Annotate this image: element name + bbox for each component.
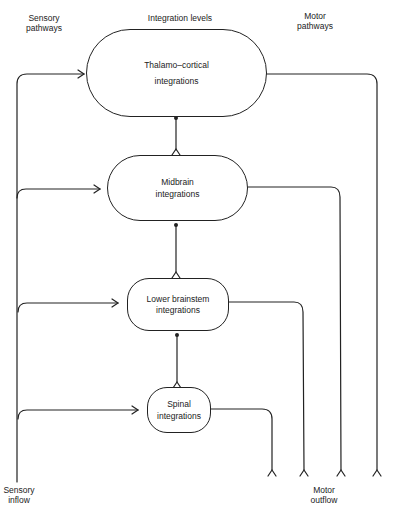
sensory-branch-lower-brainstem (18, 303, 118, 312)
header-sensory-pathways: Sensory pathways (16, 13, 72, 33)
header-motor-pathways: Motor pathways (287, 11, 343, 31)
header-integration-levels: Integration levels (130, 13, 230, 23)
footer-sensory-inflow: Sensory inflow (2, 485, 36, 505)
footer-motor-line1: Motor (313, 485, 335, 495)
motor-line-spinal (211, 409, 272, 470)
header-sensory-line2: pathways (26, 23, 62, 33)
motor-arrow-spinal-icon (268, 470, 276, 476)
connector-dot-midbrain (174, 223, 178, 227)
level-lower-line1: Lower brainstem (147, 294, 210, 305)
header-motor-line1: Motor (304, 11, 326, 21)
sensory-branch-spinal (18, 410, 138, 419)
motor-line-lower-brainstem (228, 302, 304, 470)
level-midbrain-line1: Midbrain (161, 177, 194, 188)
motor-line-thalamo (266, 74, 377, 470)
motor-arrow-midbrain-icon (337, 470, 345, 476)
level-lower-brainstem: Lower brainstem integrations (127, 278, 229, 331)
level-thalamo-cortical: Thalamo–cortical integrations (86, 29, 267, 117)
sensory-branch-midbrain (17, 189, 100, 198)
footer-sensory-line2: inflow (8, 495, 30, 505)
motor-arrow-lower-brainstem-icon (300, 470, 308, 476)
level-spinal-line1: Spinal (167, 399, 191, 410)
footer-motor-line2: outflow (311, 495, 338, 505)
level-thalamo-line1: Thalamo–cortical (144, 60, 209, 71)
level-thalamo-line2: integrations (155, 76, 199, 87)
level-midbrain: Midbrain integrations (107, 155, 248, 221)
footer-motor-outflow: Motor outflow (304, 485, 344, 505)
level-spinal: Spinal integrations (147, 387, 211, 433)
level-lower-line2: integrations (156, 305, 200, 316)
level-midbrain-line2: integrations (156, 189, 200, 200)
motor-line-midbrain (248, 187, 341, 470)
sensory-trunk-line (17, 74, 84, 482)
motor-arrow-thalamo-icon (373, 470, 381, 476)
header-sensory-line1: Sensory (28, 13, 59, 23)
level-spinal-line2: integrations (157, 411, 201, 422)
header-motor-line2: pathways (297, 21, 333, 31)
footer-sensory-line1: Sensory (3, 485, 34, 495)
connector-dot-lower (175, 333, 179, 337)
